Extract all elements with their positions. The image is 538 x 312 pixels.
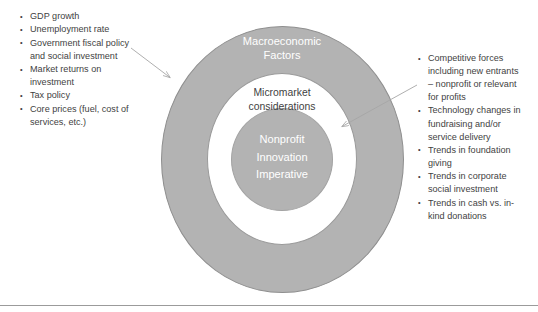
list-item: Technology changes in fundraising and/or…	[417, 104, 538, 143]
list-item: Unemployment rate	[19, 23, 167, 36]
list-item: Market returns on investment	[19, 63, 167, 89]
outer-ring-label: Macroeconomic Factors	[191, 34, 373, 63]
diagram-canvas: GDP growth Unemployment rate Government …	[0, 0, 538, 312]
list-item: Trends in corporate social investment	[417, 170, 538, 196]
inner-circle-label: Nonprofit Innovation Imperative	[222, 131, 342, 184]
bottom-divider	[0, 305, 538, 306]
left-annotation-list: GDP growth Unemployment rate Government …	[19, 10, 167, 129]
list-item: Competitive forces including new entrant…	[417, 52, 538, 104]
list-item: GDP growth	[19, 10, 167, 23]
middle-ring-label: Micromarket considerations	[197, 86, 367, 115]
list-item: Trends in cash vs. in- kind donations	[417, 197, 538, 223]
list-item: Government fiscal policy and social inve…	[19, 37, 167, 63]
list-item: Core prices (fuel, cost of services, etc…	[19, 103, 167, 129]
right-annotation-list: Competitive forces including new entrant…	[417, 52, 538, 223]
list-item: Tax policy	[19, 89, 167, 102]
list-item: Trends in foundation giving	[417, 144, 538, 170]
